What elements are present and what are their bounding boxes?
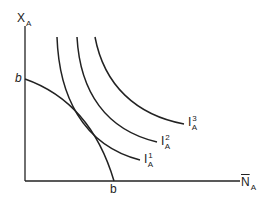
x-intercept-label: b [110, 183, 117, 195]
i3-subscript: A [192, 123, 197, 132]
y-intercept-label: b [15, 72, 22, 84]
y-intercept-text: b [15, 71, 22, 85]
i2-symbol: I [161, 134, 164, 148]
i3-symbol: I [188, 115, 191, 129]
y-axis-label: XA [17, 12, 31, 24]
x-axis-label: NA [241, 176, 256, 188]
i3-label: I3A [188, 116, 197, 128]
i1-label: I1A [144, 153, 153, 165]
i1-subscript: A [148, 160, 153, 169]
i2-label: I2A [161, 135, 170, 147]
diagram-canvas [0, 0, 272, 202]
transformation-curve [25, 79, 114, 181]
i2-subscript: A [165, 142, 170, 151]
i1-superscript: 1 [148, 151, 152, 160]
x-axis-subscript: A [251, 183, 256, 192]
y-axis-subscript: A [26, 19, 31, 28]
indifference-curve-i3 [95, 37, 184, 124]
x-axis-symbol: N [241, 175, 250, 189]
i1-symbol: I [144, 152, 147, 166]
y-axis-symbol: X [17, 11, 25, 25]
x-intercept-text: b [110, 182, 117, 196]
i3-superscript: 3 [192, 114, 196, 123]
i2-superscript: 2 [165, 133, 169, 142]
